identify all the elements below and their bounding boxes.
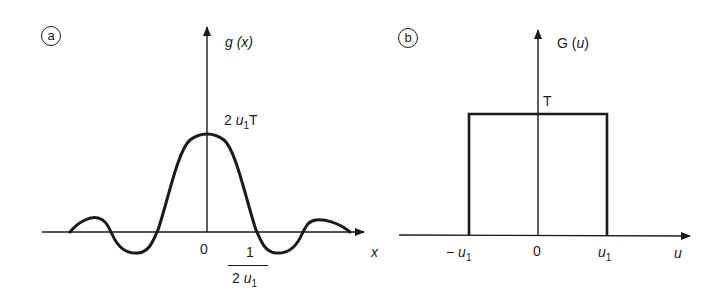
den-coef: 2 bbox=[232, 270, 240, 286]
sinc-curve bbox=[70, 134, 350, 253]
panel-a-plot bbox=[42, 27, 364, 253]
peak-label: 2 u1T bbox=[224, 113, 258, 127]
neg-sign: − bbox=[446, 244, 454, 260]
peak-tail: T bbox=[249, 112, 258, 128]
neg-tick-label: − u1 bbox=[446, 245, 471, 259]
tick-frac-denominator: 2 u1 bbox=[232, 271, 257, 285]
panel-b-plot bbox=[399, 30, 690, 236]
neg-sub: 1 bbox=[466, 252, 472, 263]
tick-frac-numerator: 1 bbox=[246, 245, 254, 259]
den-sub: 1 bbox=[251, 278, 257, 289]
panel-a-badge: a bbox=[41, 26, 61, 46]
height-label: T bbox=[543, 94, 552, 108]
figure-canvas bbox=[0, 0, 722, 303]
panel-b-y-arg: u bbox=[576, 35, 584, 51]
panel-b-y-label: G (u) bbox=[557, 36, 589, 50]
pos-sub: 1 bbox=[606, 252, 612, 263]
panel-a-origin-label: 0 bbox=[200, 242, 208, 256]
panel-b-origin-label: 0 bbox=[533, 244, 541, 258]
panel-a-y-label: g (x) bbox=[225, 35, 253, 49]
panel-b-badge: b bbox=[398, 28, 418, 48]
neg-var: u bbox=[458, 244, 466, 260]
panel-a-y-fn: g bbox=[225, 34, 233, 50]
panel-b-y-fn: G bbox=[557, 35, 568, 51]
panel-b-x-axis bbox=[399, 235, 690, 236]
pos-tick-label: u1 bbox=[598, 245, 611, 259]
panel-b-x-label: u bbox=[674, 246, 682, 260]
panel-a-y-arg: (x) bbox=[237, 34, 253, 50]
peak-sub: 1 bbox=[243, 120, 249, 131]
panel-a-x-label: x bbox=[371, 245, 378, 259]
pos-var: u bbox=[598, 244, 606, 260]
peak-coef: 2 bbox=[224, 112, 232, 128]
tick-frac-bar bbox=[228, 265, 268, 266]
